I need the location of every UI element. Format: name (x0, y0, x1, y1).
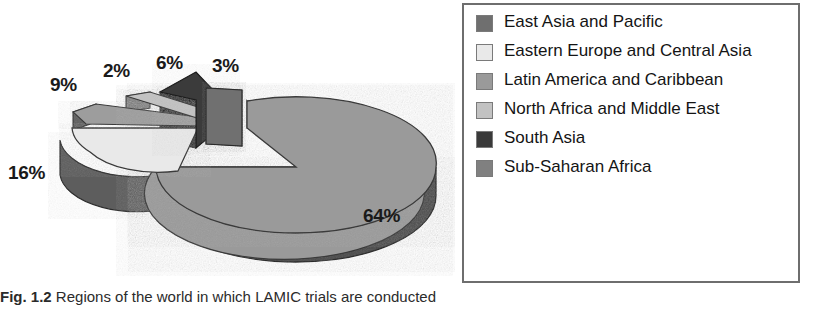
legend-label-east-asia-and-pacific: East Asia and Pacific (504, 12, 663, 32)
legend-label-south-asia: South Asia (504, 128, 585, 148)
pie-data-label-64: 64% (363, 205, 400, 227)
pie-slice-top-east-asia-and-pacific (206, 88, 242, 146)
legend-label-sub-saharan-africa: Sub-Saharan Africa (504, 157, 651, 177)
pie-data-label-3: 3% (212, 55, 239, 77)
figure-pie-chart-lamic-regions: 64% 16% 9% 2% 6% 3% East Asia and Pacifi… (0, 0, 815, 311)
legend-swatch-east-asia-and-pacific (476, 15, 493, 32)
pie-data-label-2: 2% (103, 60, 130, 82)
legend-item-north-africa-and-middle-east: North Africa and Middle East (476, 99, 792, 119)
pie-3d-stage (0, 0, 455, 285)
legend-swatch-south-asia (476, 131, 493, 148)
figure-caption-text: Regions of the world in which LAMIC tria… (56, 288, 436, 305)
legend-item-eastern-europe-and-central-asia: Eastern Europe and Central Asia (476, 41, 792, 61)
pie-chart-svg (0, 0, 455, 285)
figure-caption: Fig. 1.2 Regions of the world in which L… (0, 288, 815, 305)
legend-item-latin-america-and-caribbean: Latin America and Caribbean (476, 70, 792, 90)
legend-swatch-latin-america-and-caribbean (476, 73, 493, 90)
legend-swatch-eastern-europe-and-central-asia (476, 44, 493, 61)
legend-item-south-asia: South Asia (476, 128, 792, 148)
figure-caption-label: Fig. 1.2 (0, 288, 52, 305)
legend-swatch-sub-saharan-africa (476, 160, 493, 177)
pie-data-label-16: 16% (8, 162, 45, 184)
chart-legend: East Asia and Pacific Eastern Europe and… (462, 3, 800, 283)
pie-data-label-9: 9% (50, 74, 77, 96)
legend-label-north-africa-and-middle-east: North Africa and Middle East (504, 99, 719, 119)
legend-item-east-asia-and-pacific: East Asia and Pacific (476, 12, 792, 32)
legend-label-latin-america-and-caribbean: Latin America and Caribbean (504, 70, 723, 90)
legend-item-sub-saharan-africa: Sub-Saharan Africa (476, 157, 792, 177)
pie-chart-area: 64% 16% 9% 2% 6% 3% (0, 0, 455, 285)
pie-data-label-6: 6% (156, 52, 183, 74)
pie-slice-top-eastern-europe-and-central-asia (72, 128, 198, 172)
legend-swatch-north-africa-and-middle-east (476, 102, 493, 119)
legend-label-eastern-europe-and-central-asia: Eastern Europe and Central Asia (504, 41, 752, 61)
